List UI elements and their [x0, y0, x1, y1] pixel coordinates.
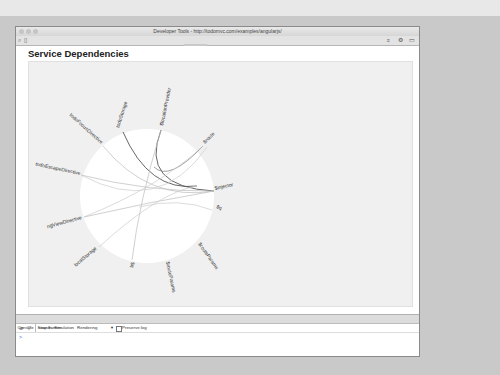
dependency-chart-panel: todoStorage $locationProvider $route $in… — [28, 61, 413, 307]
console-toolbar: ⊘ ▽ <top frame> ▼ Preserve log — [16, 324, 419, 333]
device-icon[interactable]: ▯ — [24, 37, 27, 44]
devtools-toolbar: ⌕ ▯ ElementsNetworkSourcesTimelineProfil… — [16, 36, 419, 46]
chevron-down-icon[interactable]: ▼ — [110, 324, 114, 332]
node-label: $route — [201, 130, 215, 144]
node-label: ngViewDirective — [46, 214, 82, 229]
gear-icon[interactable]: ⚙ — [398, 37, 403, 44]
filter-icon[interactable]: ▽ — [27, 324, 31, 332]
chord-circle — [80, 129, 214, 263]
node-label: $q — [216, 203, 223, 211]
desktop-bar — [0, 0, 500, 16]
drawer-tabs: ConsoleSearchEmulationRendering — [16, 314, 419, 324]
dock-icon[interactable]: ▭ — [409, 37, 415, 44]
chord-diagram: todoStorage $locationProvider $route $in… — [29, 62, 412, 306]
preserve-log-label: Preserve log — [122, 324, 147, 332]
console-prompt[interactable]: > — [16, 333, 419, 341]
node-label: $routeParams — [165, 261, 178, 293]
clear-console-icon[interactable]: ⊘ — [19, 324, 23, 332]
node-label: localStorage — [72, 245, 97, 268]
window-title: Developer Tools - http://todomvc.com/exa… — [16, 27, 419, 36]
drawer-icon[interactable]: ≡ — [387, 37, 390, 44]
node-label: $injector — [214, 181, 234, 191]
devtools-window: Developer Tools - http://todomvc.com/exa… — [15, 26, 420, 357]
angularjs-panel: Service Dependencies — [16, 46, 419, 314]
page-title: Service Dependencies — [28, 48, 129, 59]
console-drawer: ConsoleSearchEmulationRendering ⊘ ▽ <top… — [16, 314, 419, 356]
node-label: todoStorage — [114, 100, 128, 128]
node-label: $q — [129, 262, 135, 268]
frame-select[interactable]: <top frame> — [38, 324, 62, 332]
node-label: $locationProvider — [158, 87, 172, 126]
node-label: $routeParams — [197, 241, 220, 271]
search-icon[interactable]: ⌕ — [18, 37, 21, 44]
node-label: todoEscapeDirective — [35, 161, 81, 176]
node-label: todoFocusDirective — [69, 112, 105, 145]
